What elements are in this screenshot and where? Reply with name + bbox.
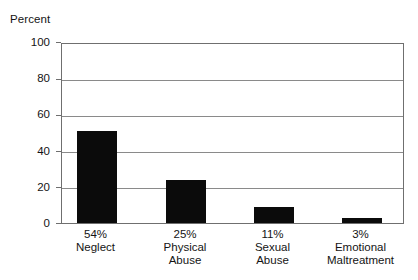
gridline bbox=[62, 80, 403, 81]
y-tick-mark bbox=[56, 42, 61, 43]
bar-category-label: Emotional bbox=[301, 241, 418, 254]
y-tick-mark bbox=[56, 187, 61, 188]
y-tick-mark bbox=[56, 223, 61, 224]
y-tick-label: 20 bbox=[0, 182, 50, 194]
bar-category-label: Maltreatment bbox=[301, 254, 418, 267]
y-tick-label: 60 bbox=[0, 109, 50, 121]
y-tick-mark bbox=[56, 115, 61, 116]
gridline bbox=[62, 116, 403, 117]
bar bbox=[254, 207, 294, 223]
y-axis-caption: Percent bbox=[10, 13, 50, 26]
y-tick-label: 80 bbox=[0, 73, 50, 85]
bar bbox=[77, 131, 117, 223]
bar-percent-label: 3% bbox=[301, 228, 418, 241]
bar bbox=[342, 218, 382, 223]
x-axis-label: 3%EmotionalMaltreatment bbox=[301, 228, 418, 268]
y-tick-mark bbox=[56, 79, 61, 80]
y-tick-label: 100 bbox=[0, 37, 50, 49]
y-tick-mark bbox=[56, 151, 61, 152]
y-tick-label: 40 bbox=[0, 146, 50, 158]
bar bbox=[166, 180, 206, 223]
plot-area bbox=[61, 43, 404, 224]
bar-chart: Percent 020406080100 54%Neglect25%Physic… bbox=[0, 0, 418, 280]
